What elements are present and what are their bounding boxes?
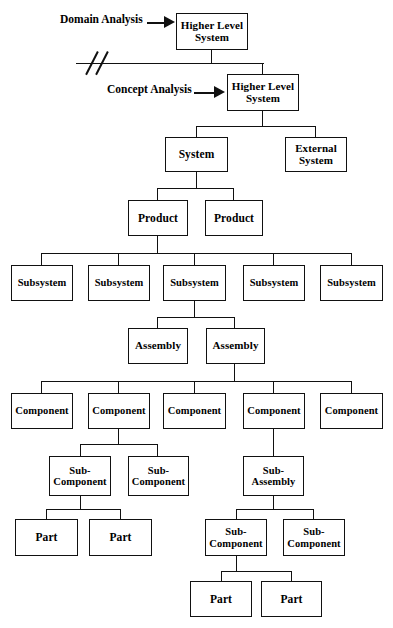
node-part-2[interactable]: Part (89, 519, 152, 556)
edge-to-system (196, 126, 197, 137)
node-label: Assembly (133, 340, 183, 352)
node-component-4[interactable]: Component (243, 393, 305, 429)
concept-analysis-arrow-line (194, 92, 216, 94)
edge-to-subsystem-2 (118, 253, 119, 265)
domain-analysis-arrow-head (164, 16, 175, 28)
edge-subcomponent3-down (236, 556, 237, 572)
edge-assembly-bus (157, 317, 235, 318)
node-label: Part (278, 593, 304, 605)
edge-to-assembly-2 (234, 317, 235, 328)
diagram-canvas: Domain Analysis Concept Analysis (0, 0, 393, 628)
node-higher-level-system-second[interactable]: Higher Level System (227, 74, 299, 111)
edge-to-bottom-part-2 (291, 571, 292, 581)
node-sub-component-2[interactable]: Sub- Component (128, 456, 189, 496)
edge-hls2-up (262, 63, 263, 74)
edge-system-bus (196, 126, 316, 127)
edge-subsystem-bus (41, 253, 352, 254)
node-label: Sub- Component (130, 465, 187, 488)
node-label: Part (208, 593, 234, 605)
node-bottom-part-1[interactable]: Part (190, 581, 252, 617)
edge-product1-down (157, 235, 158, 254)
edge-to-subsystem-4 (273, 253, 274, 265)
node-sub-component-3[interactable]: Sub- Component (205, 519, 267, 556)
edge-subcomponent1-down (80, 496, 81, 510)
node-sub-component-1[interactable]: Sub- Component (49, 456, 111, 496)
domain-analysis-label: Domain Analysis (60, 13, 143, 25)
node-component-3[interactable]: Component (163, 393, 226, 429)
edge-component-bus (41, 381, 352, 382)
node-higher-level-system-top[interactable]: Higher Level System (176, 13, 248, 50)
node-sub-assembly[interactable]: Sub- Assembly (243, 456, 304, 496)
edge-to-subsystem-3 (194, 253, 195, 265)
edge-to-component-1 (41, 381, 42, 393)
edge-hls1-down (211, 49, 212, 64)
node-product-1[interactable]: Product (128, 200, 188, 236)
edge-subassembly-down (273, 496, 274, 510)
edge-to-subsystem-5 (351, 253, 352, 265)
edge-hls2-down (262, 110, 263, 127)
node-label: Component (245, 405, 302, 416)
node-label: Product (136, 212, 180, 224)
edge-subcomponent-bus (80, 444, 158, 445)
edge-subcomponent-bus-right (236, 509, 314, 510)
edge-to-subsystem-1 (41, 253, 42, 265)
node-component-5[interactable]: Component (320, 393, 383, 429)
node-label: Product (212, 212, 256, 224)
edge-to-part-1 (46, 509, 47, 519)
node-label: Higher Level System (179, 20, 245, 44)
edge-part-bus-left (46, 509, 121, 510)
node-label: External System (293, 143, 339, 167)
edge-to-part-2 (120, 509, 121, 519)
node-component-1[interactable]: Component (11, 393, 73, 429)
node-assembly-2[interactable]: Assembly (206, 328, 265, 364)
node-label: Subsystem (248, 277, 301, 288)
edge-to-component-3 (194, 381, 195, 393)
node-label: Assembly (210, 340, 260, 352)
node-subsystem-1[interactable]: Subsystem (11, 265, 73, 301)
edge-product-bus (157, 188, 234, 189)
edge-bottom-part-bus (221, 571, 292, 572)
node-bottom-part-2[interactable]: Part (261, 581, 322, 617)
edge-to-subcomponent-4 (313, 509, 314, 519)
edge-to-component-5 (351, 381, 352, 393)
concept-analysis-arrow-head (214, 86, 225, 98)
edge-component2-down (118, 428, 119, 445)
node-label: Sub- Component (207, 526, 264, 549)
edge-assembly2-down (234, 363, 235, 382)
node-subsystem-3[interactable]: Subsystem (163, 265, 226, 301)
edge-subsystem3-down (194, 301, 195, 318)
edge-hls1-horizontal (76, 63, 264, 64)
node-product-2[interactable]: Product (205, 200, 263, 236)
edge-to-subcomponent-2 (157, 444, 158, 456)
edge-to-product-1 (157, 188, 158, 200)
node-label: Part (33, 531, 59, 543)
node-sub-component-4[interactable]: Sub- Component (283, 519, 345, 556)
node-label: Subsystem (16, 277, 69, 288)
edge-to-subcomponent-3 (236, 509, 237, 519)
edge-to-external-system (315, 126, 316, 137)
edge-component4-to-subassembly (273, 428, 274, 456)
node-label: Component (166, 405, 223, 416)
node-label: Sub- Assembly (250, 465, 298, 488)
node-external-system[interactable]: External System (285, 137, 347, 172)
node-label: Subsystem (93, 277, 146, 288)
node-part-1[interactable]: Part (15, 519, 78, 556)
node-subsystem-2[interactable]: Subsystem (88, 265, 150, 301)
node-subsystem-5[interactable]: Subsystem (320, 265, 383, 301)
node-component-2[interactable]: Component (88, 393, 150, 429)
node-label: Component (13, 405, 70, 416)
edge-to-subcomponent-1 (80, 444, 81, 456)
node-label: Sub- Component (51, 465, 108, 488)
edge-to-component-2 (118, 381, 119, 393)
node-subsystem-4[interactable]: Subsystem (243, 265, 305, 301)
node-label: Part (107, 531, 133, 543)
node-assembly-1[interactable]: Assembly (128, 328, 188, 364)
edge-to-component-4 (273, 381, 274, 393)
node-label: Component (323, 405, 380, 416)
node-system[interactable]: System (165, 137, 228, 172)
node-label: Sub- Component (285, 526, 342, 549)
edge-to-product-2 (233, 188, 234, 200)
node-label: Subsystem (325, 277, 378, 288)
edge-to-bottom-part-1 (221, 571, 222, 581)
node-label: System (177, 148, 217, 160)
